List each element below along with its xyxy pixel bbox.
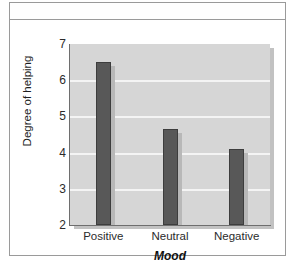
- plot-area: [70, 44, 270, 225]
- bar-negative: [229, 149, 244, 225]
- y-tick-label: 5: [44, 110, 66, 122]
- x-axis-title: Mood: [70, 249, 270, 263]
- y-tick-label: 6: [44, 74, 66, 86]
- y-axis-title: Degree of helping: [21, 46, 33, 156]
- y-tick-label: 7: [44, 38, 66, 50]
- y-axis-line: [69, 44, 70, 226]
- bar-chart: 7 6 5 4 3 2 Degree of helping Positive N…: [10, 20, 285, 256]
- bar-positive: [96, 62, 111, 225]
- bar-neutral: [163, 129, 178, 225]
- y-tick-label: 4: [44, 147, 66, 159]
- x-tick-label-negative: Negative: [197, 230, 277, 242]
- y-tick-label: 3: [44, 183, 66, 195]
- figure-frame: 7 6 5 4 3 2 Degree of helping Positive N…: [9, 2, 286, 256]
- y-axis-ticks: 7 6 5 4 3 2: [38, 20, 66, 256]
- x-axis-line: [69, 225, 271, 226]
